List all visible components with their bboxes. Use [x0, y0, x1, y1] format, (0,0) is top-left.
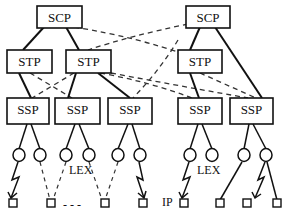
terminal-icon: [260, 149, 272, 162]
endpoint-icon: [243, 199, 251, 207]
svg-text:SSP: SSP: [67, 102, 89, 117]
terminal-icon: [238, 149, 250, 162]
endpoint-icon: [101, 199, 109, 207]
terminal-icon: [13, 149, 25, 162]
terminal-icon: [206, 149, 218, 162]
terminal-icon: [34, 149, 46, 162]
ssp-node-4: SSP: [178, 98, 222, 124]
link-stp1-ssp2: [30, 73, 72, 98]
terminal-icon: [134, 149, 146, 162]
lightning-icon: [182, 162, 190, 198]
stp-node-3: STP: [178, 50, 222, 73]
terminal-icon: [60, 149, 72, 162]
network-diagram: SCP SCP STP STP STP SSP SSP SSP SSP SSP: [0, 0, 284, 211]
lightning-icon: [11, 162, 19, 198]
link-stp2-ssp2: [68, 73, 76, 98]
right-solid-links: [220, 162, 277, 200]
ssp-node-1: SSP: [7, 98, 49, 124]
endpoint-icon: [47, 199, 55, 207]
ssp-node-5: SSP: [230, 98, 273, 124]
stp-node-1: STP: [7, 50, 52, 73]
ip-label: IP: [162, 195, 173, 209]
ellipsis-label: - - -: [63, 198, 81, 211]
solid-links: [19, 27, 262, 98]
link-stp3-ssp3: [133, 40, 178, 98]
ssp-node-2: SSP: [55, 98, 100, 124]
endpoint-icon: [180, 199, 188, 207]
svg-text:SCP: SCP: [48, 10, 71, 25]
link-scp2-stp2: [88, 24, 188, 50]
svg-text:SCP: SCP: [196, 10, 219, 25]
link-stp2-ssp3: [98, 73, 130, 98]
lightning-icon: [137, 162, 144, 198]
svg-text:SSP: SSP: [241, 102, 263, 117]
svg-text:STP: STP: [77, 54, 99, 69]
link-scp1-stp2: [66, 27, 79, 50]
lightning-icon: [255, 162, 265, 198]
svg-text:SSP: SSP: [17, 102, 39, 117]
endpoint-squares: [9, 199, 281, 207]
link-scp1-stp1: [23, 27, 44, 50]
stp-node-2: STP: [66, 50, 111, 73]
endpoint-icon: [216, 199, 224, 207]
link-scp2-stp3: [190, 27, 200, 50]
scp-node-1: SCP: [37, 6, 82, 28]
svg-text:SSP: SSP: [189, 102, 211, 117]
ssp-node-3: SSP: [108, 98, 152, 124]
endpoint-icon: [139, 199, 147, 207]
lex-label-right: LEX: [197, 163, 221, 177]
terminal-circles: [13, 149, 272, 162]
wireless-links: [8, 162, 265, 198]
scp-node-2: SCP: [186, 6, 230, 28]
link-stp3-ssp4: [190, 73, 199, 98]
terminal-icon: [184, 149, 196, 162]
lex-label-left: LEX: [69, 163, 93, 177]
link-stp2-ssp1: [32, 73, 74, 98]
svg-text:STP: STP: [18, 54, 40, 69]
endpoint-icon: [9, 199, 17, 207]
svg-text:SSP: SSP: [119, 102, 141, 117]
terminal-links: [19, 124, 266, 149]
terminal-icon: [83, 149, 95, 162]
svg-text:STP: STP: [189, 54, 211, 69]
terminal-icon: [112, 149, 124, 162]
link-stp1-ssp1: [19, 73, 31, 98]
endpoint-icon: [273, 199, 281, 207]
